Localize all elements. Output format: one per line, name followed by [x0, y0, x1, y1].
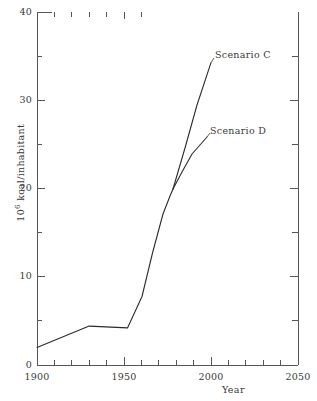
- series-scenario-d-line: [173, 137, 207, 189]
- series-label-scenario-d: Scenario D: [210, 126, 266, 136]
- chart-figure: 40 30 20 10 0 1900 1950 2000 2050 106 kc…: [0, 0, 317, 401]
- series-label-scenario-c: Scenario C: [215, 50, 271, 60]
- leader-scenario-c: [211, 58, 214, 63]
- series-scenario-c-line: [173, 63, 211, 189]
- x-axis-top-ticks: [54, 12, 141, 19]
- x-tick-label-2050: 2050: [278, 372, 317, 382]
- x-tick-label-1950: 1950: [104, 372, 144, 382]
- y-tick-label-40: 40: [10, 7, 32, 17]
- y-axis-title: 106 kcal/inhabitant: [16, 108, 26, 238]
- x-tick-label-2000: 2000: [191, 372, 231, 382]
- x-tick-label-1900: 1900: [17, 372, 57, 382]
- y-axis-right-ticks: [290, 56, 298, 321]
- x-axis-title: Year: [222, 385, 245, 395]
- x-axis-ticks: [37, 357, 298, 365]
- y-axis-title-suffix: kcal/inhabitant: [15, 124, 26, 204]
- y-tick-label-0: 0: [10, 360, 32, 370]
- series-historical-line: [37, 189, 173, 347]
- y-axis-title-prefix: 10: [15, 209, 26, 222]
- chart-plot-area: [0, 0, 317, 401]
- y-axis-title-exponent: 6: [14, 204, 22, 209]
- y-tick-label-30: 30: [10, 95, 32, 105]
- y-tick-label-10: 10: [10, 271, 32, 281]
- y-axis-ticks: [37, 12, 45, 365]
